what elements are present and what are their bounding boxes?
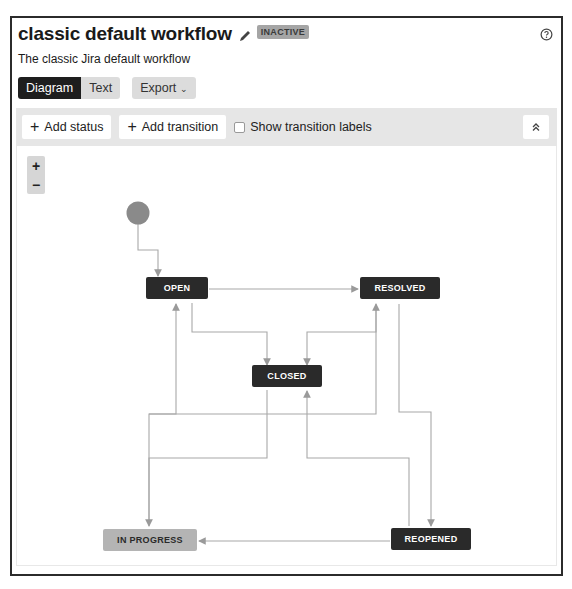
add-status-button[interactable]: + Add status	[22, 115, 111, 139]
tab-text[interactable]: Text	[81, 77, 120, 99]
status-badge: INACTIVE	[257, 25, 309, 39]
start-node	[127, 202, 150, 225]
plus-icon: +	[127, 115, 136, 139]
workflow-description: The classic Jira default workflow	[18, 52, 190, 66]
status-resolved[interactable]: RESOLVED	[360, 277, 440, 299]
checkbox[interactable]	[234, 122, 245, 133]
question-circle-icon[interactable]	[540, 28, 553, 41]
diagram-canvas[interactable]: + −	[16, 146, 557, 566]
diagram-toolbar: + Add status + Add transition Show trans…	[16, 108, 557, 146]
export-label: Export	[140, 81, 176, 95]
double-chevron-up-icon	[531, 122, 541, 132]
title-row: classic default workflow INACTIVE	[18, 22, 309, 46]
workflow-panel: classic default workflow INACTIVE The cl…	[10, 16, 563, 576]
pencil-icon[interactable]	[238, 29, 252, 43]
add-transition-button[interactable]: + Add transition	[119, 115, 226, 139]
export-button[interactable]: Export⌄	[132, 77, 196, 99]
plus-icon: +	[30, 115, 39, 139]
tab-diagram[interactable]: Diagram	[18, 77, 81, 99]
transition-lines	[17, 146, 558, 566]
status-open[interactable]: OPEN	[146, 277, 208, 299]
add-status-label: Add status	[44, 115, 103, 139]
collapse-button[interactable]	[523, 115, 549, 139]
show-transition-labels-checkbox[interactable]: Show transition labels	[234, 120, 372, 134]
page-title: classic default workflow	[18, 23, 232, 45]
show-transition-labels-label: Show transition labels	[250, 120, 372, 134]
add-transition-label: Add transition	[142, 115, 218, 139]
status-in-progress[interactable]: IN PROGRESS	[103, 529, 197, 551]
chevron-down-icon: ⌄	[180, 84, 188, 94]
view-controls: Diagram Text Export⌄	[18, 77, 196, 99]
status-reopened[interactable]: REOPENED	[391, 528, 471, 550]
status-closed[interactable]: CLOSED	[252, 365, 322, 387]
